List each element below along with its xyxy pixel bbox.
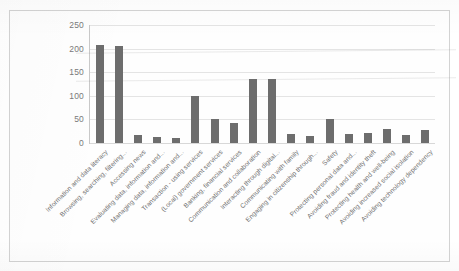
bar (191, 96, 199, 143)
gridline (90, 143, 435, 144)
bar (287, 134, 295, 143)
y-axis-tick-label: 50 (74, 115, 84, 124)
x-axis-category-label: Information and data literacy (0, 149, 109, 271)
bar (249, 79, 257, 143)
bar (268, 79, 276, 143)
bar (421, 130, 429, 143)
bar (383, 129, 391, 143)
y-axis-tick-label: 0 (79, 139, 84, 148)
bar (306, 136, 314, 143)
y-axis-tick-label: 250 (69, 21, 84, 30)
bar-series (90, 25, 435, 143)
chart-frame: 050100150200250 Information and data lit… (9, 10, 450, 262)
bar (211, 119, 219, 143)
bar (172, 138, 180, 143)
bar (364, 133, 372, 143)
bar (326, 119, 334, 143)
bar (96, 45, 104, 143)
bar (134, 135, 142, 143)
y-axis-tick-label: 200 (69, 44, 84, 53)
bar (345, 134, 353, 143)
y-axis-tick-labels: 050100150200250 (54, 25, 84, 143)
bar (153, 137, 161, 143)
bar (230, 123, 238, 143)
y-axis-tick-label: 100 (69, 92, 84, 101)
plot-area (90, 25, 435, 143)
bar (402, 135, 410, 143)
y-axis-tick-label: 150 (69, 68, 84, 77)
bar (115, 46, 123, 143)
